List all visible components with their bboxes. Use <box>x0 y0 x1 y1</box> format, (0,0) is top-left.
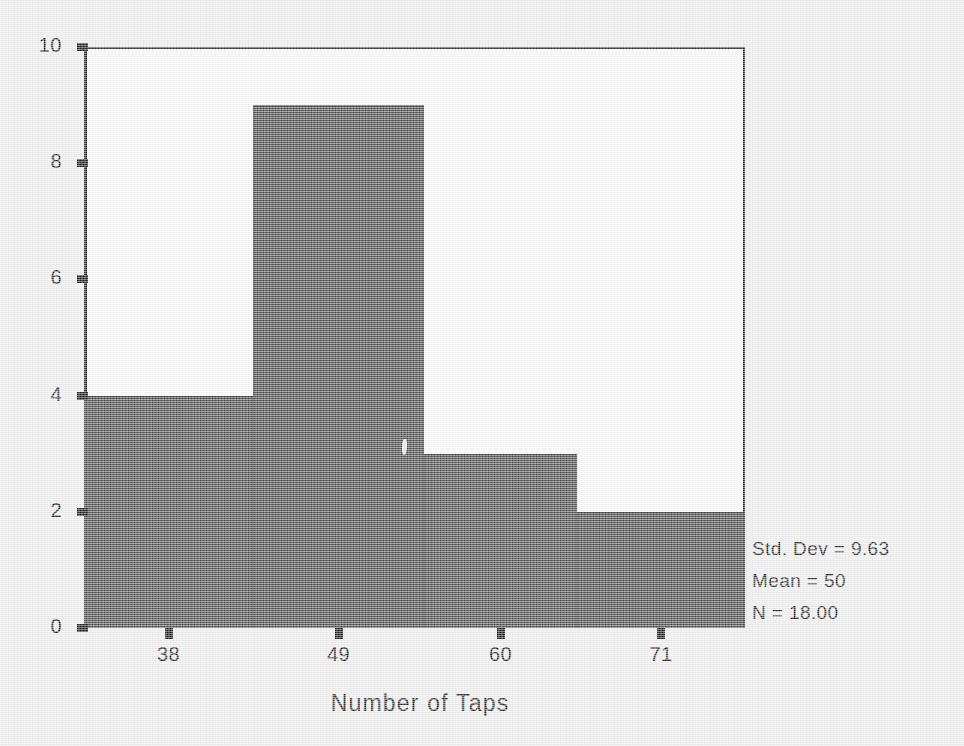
x-axis-tick <box>165 628 173 639</box>
y-axis-tick <box>77 508 88 516</box>
y-axis-tick-label: 0 <box>18 615 62 638</box>
x-axis-tick <box>497 628 505 639</box>
x-axis-tick-label: 38 <box>129 643 209 666</box>
stat-n: N = 18.00 <box>752 597 890 629</box>
x-axis-tick-label: 60 <box>461 643 541 666</box>
histogram-figure: 1086420 38496071 Number of Taps Std. Dev… <box>0 0 964 746</box>
y-axis-tick <box>77 159 88 167</box>
y-axis-tick <box>77 392 88 400</box>
statistics-annotation: Std. Dev = 9.63 Mean = 50 N = 18.00 <box>752 533 890 629</box>
x-axis-title: Number of Taps <box>220 690 620 717</box>
y-axis-tick <box>77 43 88 51</box>
y-axis-tick <box>77 624 88 632</box>
y-axis-tick-label: 8 <box>18 150 62 173</box>
y-axis-tick-label: 4 <box>18 383 62 406</box>
x-axis-tick <box>335 628 343 639</box>
y-axis-tick <box>77 275 88 283</box>
y-axis-tick-label: 2 <box>18 499 62 522</box>
stat-mean: Mean = 50 <box>752 565 890 597</box>
x-axis-tick-label: 71 <box>621 643 701 666</box>
stat-std-dev: Std. Dev = 9.63 <box>752 533 890 565</box>
x-axis-tick-label: 49 <box>299 643 379 666</box>
y-axis-tick-label: 10 <box>18 34 62 57</box>
y-axis: 1086420 <box>0 0 964 746</box>
x-axis-tick <box>657 628 665 639</box>
y-axis-tick-label: 6 <box>18 266 62 289</box>
